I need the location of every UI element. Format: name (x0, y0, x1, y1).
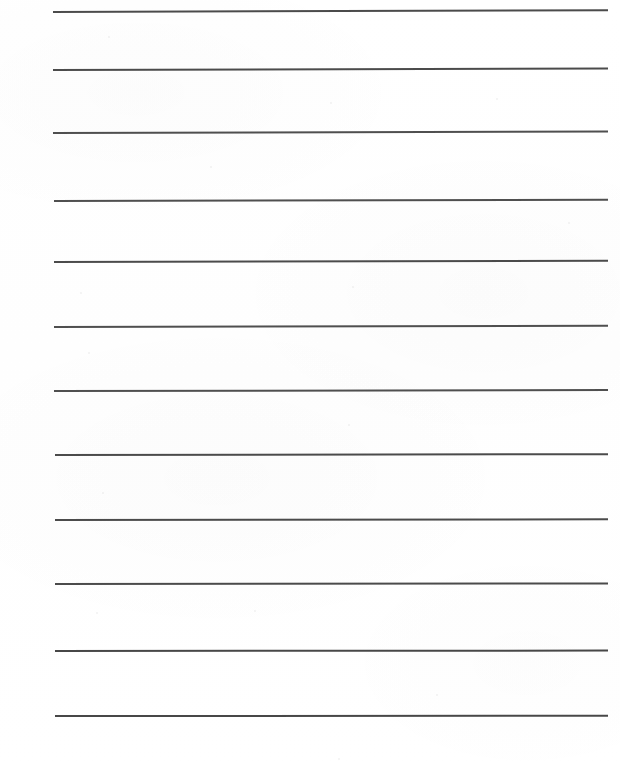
ruled-line (54, 199, 608, 202)
scan-speck (330, 102, 332, 104)
ruled-line (54, 389, 608, 392)
scanned-page (0, 0, 620, 771)
ruled-line (55, 715, 608, 717)
ruled-line (53, 131, 608, 134)
scan-speck (80, 292, 82, 294)
scan-speck (88, 352, 90, 354)
scan-speck (348, 424, 350, 426)
ruled-line (55, 518, 608, 521)
scan-speck (108, 36, 110, 38)
ruled-line (53, 9, 608, 13)
scan-speck (496, 98, 498, 100)
ruled-line (55, 453, 608, 456)
scan-speck (436, 694, 438, 696)
scan-speck (96, 612, 98, 614)
ruled-line (55, 650, 608, 652)
ruled-line (55, 583, 608, 585)
scan-speck (102, 492, 104, 494)
scan-speck (210, 166, 212, 168)
scan-speck (254, 610, 256, 612)
scan-speck (352, 286, 354, 288)
ruled-line (54, 325, 608, 328)
ruled-line (54, 260, 608, 263)
ruled-line (53, 67, 608, 71)
scan-speck (568, 222, 570, 224)
paper-texture (0, 0, 620, 771)
scan-speck (338, 758, 340, 760)
